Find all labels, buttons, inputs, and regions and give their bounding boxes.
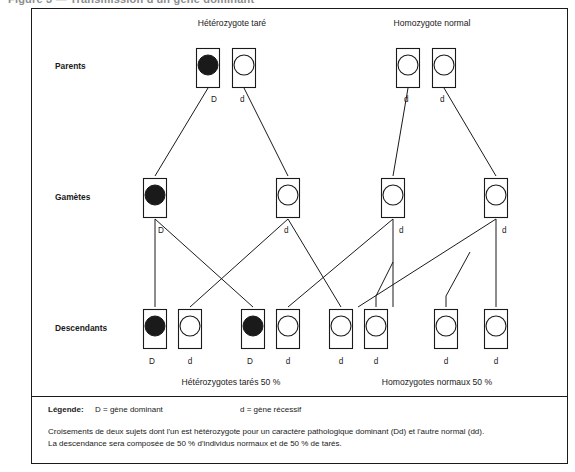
- parent-allele-4: d: [440, 95, 445, 104]
- gamete-offspring-links: [155, 219, 496, 307]
- offspring-cell-3: D: [242, 310, 265, 367]
- offspring-allele-3: D: [247, 357, 253, 366]
- parent-heading-left: Hétérozygote taré: [198, 18, 267, 28]
- parent-allele-3: d: [404, 95, 409, 104]
- parent-heading-right: Homozygote normal: [394, 18, 471, 28]
- offspring-cell-4: d: [277, 310, 300, 367]
- caption-line-2: La descendance sera composée de 50 % d'i…: [48, 439, 342, 448]
- offspring-allele-7: d: [444, 357, 449, 366]
- offspring-cell-5: d: [330, 310, 353, 367]
- offspring-allele-2: d: [188, 357, 193, 366]
- offspring-allele-1: D: [149, 357, 155, 366]
- legend-dominant: D = gène dominant: [95, 405, 164, 414]
- parent-allele-2: d: [240, 95, 245, 104]
- offspring-cell-6: d: [365, 310, 388, 367]
- legend-title: Légende:: [48, 405, 84, 414]
- parent-cell-3: d: [397, 49, 420, 105]
- row-label-gametes: Gamètes: [55, 192, 91, 202]
- offspring-cell-8: d: [485, 310, 508, 367]
- result-left: Hétérozygotes tarés 50 %: [182, 377, 281, 387]
- offspring-cell-7: d: [435, 310, 458, 367]
- offspring-allele-4: d: [286, 357, 291, 366]
- parent-cell-4: d: [433, 49, 456, 105]
- offspring-allele-6: d: [374, 357, 379, 366]
- parent-cell-1: D: [197, 49, 220, 105]
- parent-gamete-links: [155, 88, 496, 176]
- parent-cell-2: d: [233, 49, 256, 105]
- gamete-allele-4: d: [502, 226, 507, 235]
- diagram-border: [32, 9, 568, 464]
- caption-line-1: Croisements de deux sujets dont l'un est…: [48, 427, 484, 436]
- offspring-allele-5: d: [339, 357, 344, 366]
- parent-allele-1: D: [211, 95, 217, 104]
- row-label-parents: Parents: [55, 61, 86, 71]
- gamete-allele-1: D: [158, 226, 164, 235]
- gamete-allele-3: d: [399, 226, 404, 235]
- row-label-offspring: Descendants: [55, 323, 107, 333]
- gamete-allele-2: d: [284, 226, 289, 235]
- genetics-cross-diagram: Hétérozygote taré Homozygote normal Pare…: [0, 0, 575, 472]
- result-right: Homozygotes normaux 50 %: [382, 377, 493, 387]
- gamete-offspring-links-extra: [376, 252, 470, 307]
- legend-recessive: d = gène récessif: [240, 405, 302, 414]
- offspring-cell-2: d: [179, 310, 202, 367]
- offspring-allele-8: d: [494, 357, 499, 366]
- offspring-cell-1: D: [144, 310, 167, 367]
